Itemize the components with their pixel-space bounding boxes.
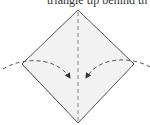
origami-diagram <box>0 0 150 125</box>
